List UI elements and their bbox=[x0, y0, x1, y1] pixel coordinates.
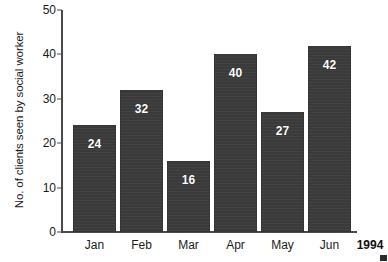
bar-chart: No. of clients seen by social worker 010… bbox=[0, 0, 388, 262]
plot-area: 01020304050 243216402742 bbox=[62, 10, 356, 232]
bar: 27 bbox=[261, 112, 304, 232]
y-axis-tick-mark bbox=[57, 187, 62, 188]
bar: 32 bbox=[120, 90, 163, 232]
y-axis-tick-mark bbox=[57, 98, 62, 99]
bar-value-label: 40 bbox=[214, 66, 257, 80]
bar-value-label: 16 bbox=[167, 173, 210, 187]
bar-value-label: 27 bbox=[261, 124, 304, 138]
y-axis-tick-mark bbox=[57, 232, 62, 233]
y-axis-tick-mark bbox=[57, 54, 62, 55]
x-axis-year-label: 1994 bbox=[352, 238, 388, 252]
bar: 40 bbox=[214, 54, 257, 232]
y-axis-title: No. of clients seen by social worker bbox=[8, 4, 30, 236]
bar-value-label: 32 bbox=[120, 102, 163, 116]
y-axis-tick-mark bbox=[57, 143, 62, 144]
bar: 24 bbox=[73, 125, 116, 232]
bar-value-label: 24 bbox=[73, 137, 116, 151]
y-axis-tick-mark bbox=[57, 10, 62, 11]
bar-value-label: 42 bbox=[308, 58, 351, 72]
bar: 42 bbox=[308, 46, 351, 232]
bar: 16 bbox=[167, 161, 210, 232]
x-axis-tick-label: Jun bbox=[302, 238, 357, 252]
scan-artifact bbox=[380, 255, 387, 261]
